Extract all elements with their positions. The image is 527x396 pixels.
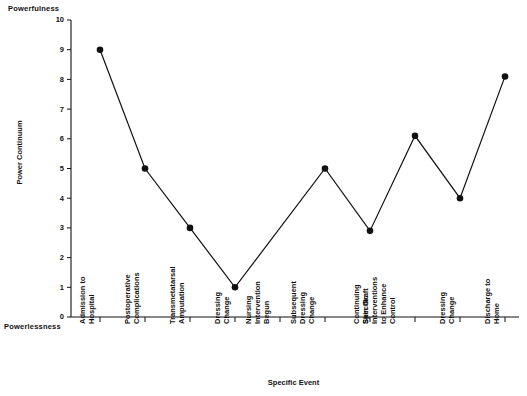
x-category-label: PostoperativeComplications (123, 252, 141, 324)
data-point-marker (97, 46, 104, 53)
x-category-label-line: Amputation (177, 252, 186, 324)
x-category-label-line: Admission to (78, 252, 87, 324)
x-category-label-line: Dressing (213, 252, 222, 324)
x-category-label-line: Transmetatarsal (168, 252, 177, 324)
x-category-label-line: Control (388, 252, 397, 324)
x-category-label-line: Dressing (438, 252, 447, 324)
x-category-label: TransmetatarsalAmputation (168, 252, 186, 324)
x-category-label-line: to Enhance (379, 252, 388, 324)
y-tick-label: 8 (60, 75, 64, 84)
x-category-label-line: Change (222, 252, 231, 324)
data-point-marker (412, 133, 419, 140)
x-category-label-line: Subsequent (289, 252, 298, 324)
data-point-marker (502, 73, 509, 80)
y-tick-label: 7 (60, 105, 64, 114)
data-point-marker (187, 225, 194, 232)
y-tick-label: 10 (56, 15, 64, 24)
y-tick-label: 4 (60, 194, 65, 203)
x-category-label-line: Begun (262, 252, 271, 324)
data-point-marker (322, 165, 329, 172)
x-category-label-line: Home (492, 252, 501, 324)
x-category-label-line: Postoperative (123, 252, 132, 324)
y-tick-label: 1 (60, 283, 64, 292)
x-category-label: DressingChange (438, 252, 456, 324)
y-tick-label: 2 (60, 253, 64, 262)
data-point-marker (142, 165, 149, 172)
y-axis-ticks: 012345678910 (56, 15, 71, 321)
y-tick-label: 3 (60, 223, 64, 232)
y-tick-label: 6 (60, 134, 64, 143)
x-category-label-line: Interventions (370, 252, 379, 324)
y-tick-label: 9 (60, 45, 64, 54)
data-point-marker (232, 284, 239, 291)
data-point-marker (457, 195, 464, 202)
x-category-label-line: Complications (132, 252, 141, 324)
x-category-label-line: Dressing (298, 252, 307, 324)
x-category-label: DressingChange (213, 252, 231, 324)
power-continuum-line-chart: Powerfulness Powerlessness Power Continu… (0, 0, 527, 396)
x-category-label-line: Change (447, 252, 456, 324)
x-category-label: ContinuingSpecificInterventionsto Enhanc… (352, 252, 397, 324)
x-category-label-line: Hospital (87, 252, 96, 324)
x-category-label-line: Intervention (253, 252, 262, 324)
x-category-label-line: Discharge to (483, 252, 492, 324)
x-category-label-line: Specific (361, 252, 370, 324)
plot-area: 012345678910 (0, 0, 527, 396)
x-category-label-line: Change (307, 252, 316, 324)
data-point-marker (367, 228, 374, 235)
x-category-label-line: Continuing (352, 252, 361, 324)
x-category-label-line: Nursing (244, 252, 253, 324)
x-category-label: SubsequentDressingChange (289, 252, 316, 324)
x-category-label: Admission toHospital (78, 252, 96, 324)
x-category-label: Discharge toHome (483, 252, 501, 324)
y-tick-label: 5 (60, 164, 64, 173)
x-category-label: NursingInterventionBegun (244, 252, 271, 324)
y-tick-label: 0 (60, 312, 64, 321)
